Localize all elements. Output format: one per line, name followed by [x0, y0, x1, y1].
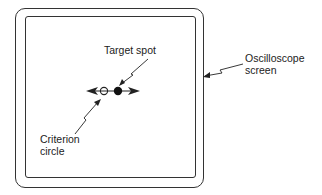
target-spot-leader — [121, 59, 148, 84]
target-spot-text: Target spot — [104, 44, 156, 56]
movement-axis — [86, 87, 140, 95]
oscilloscope-text-line1: Oscilloscope — [245, 52, 305, 64]
criterion-leader — [75, 102, 98, 134]
criterion-text-line1: Criterion — [40, 133, 80, 145]
diagram-graphics — [0, 0, 322, 195]
oscilloscope-text-line2: screen — [245, 64, 305, 76]
criterion-circle-label: Criterion circle — [40, 133, 80, 157]
criterion-text-line2: circle — [40, 145, 80, 157]
oscilloscope-leader — [205, 64, 243, 76]
target-spot-label: Target spot — [104, 44, 156, 56]
oscilloscope-screen-label: Oscilloscope screen — [245, 52, 305, 76]
target-spot-icon — [114, 87, 122, 95]
